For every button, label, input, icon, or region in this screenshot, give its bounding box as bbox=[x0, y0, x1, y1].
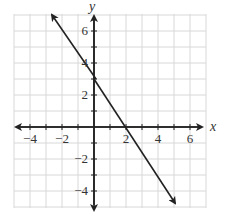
svg-text:4: 4 bbox=[82, 55, 89, 70]
svg-text:2: 2 bbox=[123, 131, 130, 146]
svg-text:−2: −2 bbox=[74, 151, 88, 166]
svg-text:6: 6 bbox=[187, 131, 194, 146]
svg-text:−4: −4 bbox=[74, 183, 88, 198]
svg-text:2: 2 bbox=[82, 87, 89, 102]
coordinate-plane: −4 −2 2 4 6 6 4 2 −2 −4 x y bbox=[0, 0, 228, 221]
x-axis-label: x bbox=[209, 119, 217, 134]
y-axis-label: y bbox=[87, 0, 96, 14]
svg-text:−4: −4 bbox=[23, 131, 37, 146]
svg-text:6: 6 bbox=[82, 23, 89, 38]
svg-text:−2: −2 bbox=[55, 131, 69, 146]
grid bbox=[14, 14, 206, 208]
svg-text:4: 4 bbox=[155, 131, 162, 146]
